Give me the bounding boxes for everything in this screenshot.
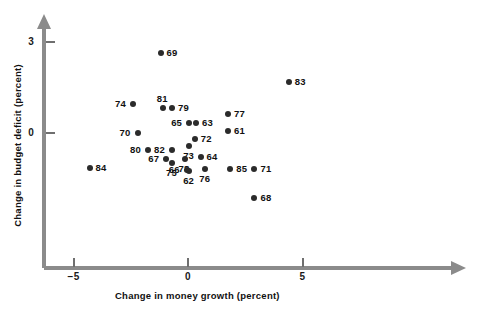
data-point [251, 195, 257, 201]
data-point-label: 65 [171, 117, 182, 128]
data-point-label: 71 [260, 163, 271, 174]
data-point [186, 143, 192, 149]
data-point-label: 77 [234, 108, 245, 119]
data-point [169, 105, 175, 111]
y-axis-tick-label: 3 [12, 36, 34, 47]
data-point [186, 168, 192, 174]
data-point [225, 128, 231, 134]
y-axis-arrowhead [37, 14, 51, 29]
data-point-label: 61 [234, 125, 245, 136]
data-point-label: 67 [148, 153, 159, 164]
data-point [286, 79, 292, 85]
data-point-label: 63 [202, 117, 213, 128]
data-point-label: 69 [167, 47, 178, 58]
data-point [160, 105, 166, 111]
y-axis-line [42, 28, 46, 268]
data-point [130, 101, 136, 107]
data-point-label: 85 [236, 163, 247, 174]
data-point-label: 72 [201, 133, 212, 144]
data-point [227, 166, 233, 172]
x-axis-tick-label: 0 [176, 271, 200, 282]
data-point [186, 120, 192, 126]
x-axis-tick [73, 258, 75, 267]
data-point-label: 64 [207, 151, 218, 162]
data-point [135, 130, 141, 136]
data-point-label: 74 [115, 98, 126, 109]
data-point [87, 165, 93, 171]
data-point-label: 80 [130, 144, 141, 155]
x-axis-tick-label: 5 [291, 271, 315, 282]
x-axis-arrowhead [451, 261, 466, 275]
data-point-label: 81 [157, 93, 168, 104]
y-axis-title: Change in budget deficit (percent) [12, 61, 23, 231]
data-point-label: 84 [96, 162, 107, 173]
data-point [202, 166, 208, 172]
data-point [169, 147, 175, 153]
data-point-label: 83 [295, 76, 306, 87]
data-point [225, 111, 231, 117]
data-point-label: 79 [178, 102, 189, 113]
data-point [198, 154, 204, 160]
x-axis-title: Change in money growth (percent) [115, 290, 280, 301]
data-point-label: 76 [199, 173, 210, 184]
data-point-label: 62 [183, 175, 194, 186]
y-axis-tick [46, 132, 55, 134]
data-point-label: 66 [169, 164, 180, 175]
y-axis-tick [46, 41, 55, 43]
scatter-plot-chart: −50503 698374817977656370617280827367786… [0, 0, 489, 313]
x-axis-tick [302, 258, 304, 267]
data-point [158, 50, 164, 56]
data-point [193, 120, 199, 126]
data-point [192, 136, 198, 142]
x-axis-tick [187, 258, 189, 267]
data-point-label: 68 [260, 192, 271, 203]
data-point-label: 70 [120, 127, 131, 138]
data-point [251, 166, 257, 172]
data-point [145, 147, 151, 153]
data-point [182, 156, 188, 162]
x-axis-line [44, 266, 454, 270]
x-axis-tick-label: −5 [62, 271, 86, 282]
